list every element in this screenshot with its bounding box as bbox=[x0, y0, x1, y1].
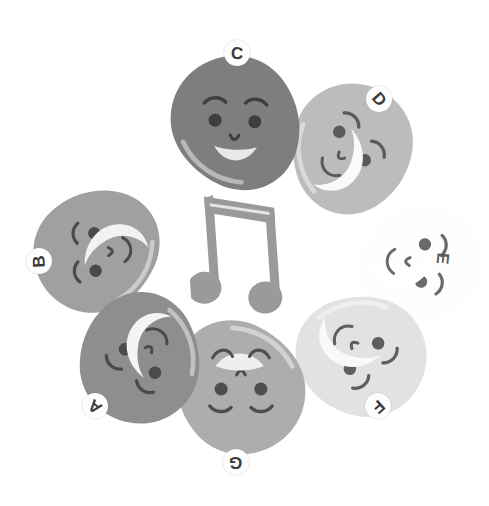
label-badge-f: F bbox=[365, 393, 391, 419]
potato-body bbox=[168, 53, 302, 192]
label-badge-g: G bbox=[223, 449, 249, 475]
eye-left bbox=[254, 382, 267, 395]
label-badge-d: D bbox=[366, 86, 392, 112]
label-letter: F bbox=[368, 396, 387, 416]
label-letter: A bbox=[85, 396, 105, 417]
label-badge-b: B bbox=[26, 248, 52, 274]
eye-right bbox=[215, 382, 228, 395]
label-letter: B bbox=[30, 255, 47, 268]
label-letter: E bbox=[434, 251, 452, 264]
label-letter: D bbox=[369, 89, 390, 110]
potato-character-c bbox=[162, 48, 309, 195]
music-note-icon bbox=[184, 182, 303, 319]
label-badge-c: C bbox=[224, 40, 250, 66]
label-letter: C bbox=[231, 44, 244, 61]
label-badge-e: E bbox=[430, 245, 456, 271]
label-letter: G bbox=[229, 454, 242, 471]
label-badge-a: A bbox=[82, 393, 108, 419]
